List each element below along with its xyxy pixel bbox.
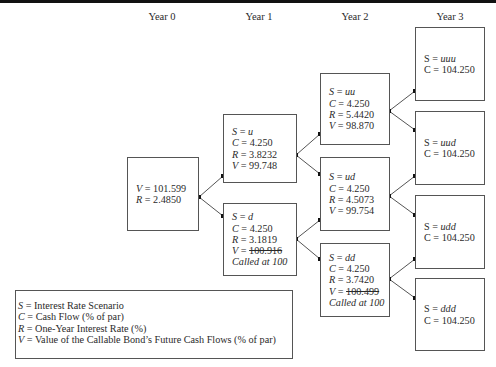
c-symbol: C — [329, 183, 336, 194]
node-ud: S = ud C = 4.250 R = 4.5073 V = 99.754 — [320, 157, 390, 231]
rate-line: R = 3.7420 — [329, 274, 389, 285]
c-symbol: C — [232, 137, 239, 148]
node-u: S = u C = 4.250 R = 3.8232 V = 99.748 — [223, 114, 297, 183]
equals: = — [431, 148, 442, 159]
s-value: uu — [345, 86, 355, 97]
s-value: u — [248, 126, 253, 137]
v-value: 99.754 — [346, 205, 374, 216]
cashflow-line: C = 4.250 — [329, 183, 389, 194]
value-line: V = 98.870 — [329, 120, 389, 131]
equals: = — [237, 211, 248, 222]
c-value: 4.250 — [250, 223, 273, 234]
equals: = — [238, 149, 249, 160]
node-uud: S = uud C = 104.250 — [415, 111, 485, 185]
c-value: 104.250 — [442, 315, 475, 326]
s-value: ddd — [441, 303, 456, 314]
node-uuu: S = uuu C = 104.250 — [415, 27, 485, 101]
value-line: V = 100.916 — [232, 245, 296, 256]
legend-symbol: C — [18, 311, 25, 322]
legend-item-c: C = Cash Flow (% of par) — [18, 311, 292, 322]
equals: = — [431, 232, 442, 243]
scenario-line: S = udd — [424, 221, 484, 232]
equals: = — [335, 109, 346, 120]
equals: = — [334, 252, 345, 263]
equals: = — [239, 223, 250, 234]
value-line: V = 99.754 — [329, 205, 389, 216]
cashflow-line: C = 104.250 — [424, 232, 484, 243]
equals: = — [238, 160, 249, 171]
scenario-line: S = d — [232, 211, 296, 222]
scenario-line: S = u — [232, 126, 296, 137]
s-value: uud — [441, 137, 456, 148]
cashflow-line: C = 104.250 — [424, 64, 484, 75]
legend-item-s: S = Interest Rate Scenario — [18, 300, 292, 311]
s-value: d — [248, 211, 253, 222]
equals: = — [238, 234, 249, 245]
equals: = — [430, 53, 441, 64]
equals: = — [335, 274, 346, 285]
c-symbol: C — [424, 315, 431, 326]
node-root-value: V = 101.599 — [136, 183, 198, 194]
s-value: uuu — [441, 53, 456, 64]
c-symbol: C — [424, 232, 431, 243]
scenario-line: S = uuu — [424, 53, 484, 64]
equals: = — [336, 263, 347, 274]
node-ddd: S = ddd C = 104.250 — [415, 278, 485, 351]
c-symbol: C — [424, 64, 431, 75]
c-symbol: C — [329, 263, 336, 274]
equals: = — [336, 183, 347, 194]
c-value: 4.250 — [250, 137, 273, 148]
legend-text: = Cash Flow (% of par) — [25, 311, 124, 322]
equals: = — [431, 315, 442, 326]
s-value: udd — [441, 221, 456, 232]
equals: = — [430, 137, 441, 148]
node-d: S = d C = 4.250 R = 3.1819 V = 100.916 C… — [223, 203, 297, 276]
c-value: 104.250 — [442, 148, 475, 159]
scenario-line: S = uud — [424, 137, 484, 148]
equals: = — [335, 205, 346, 216]
s-value: ud — [345, 171, 355, 182]
called-note: Called at 100 — [232, 256, 296, 267]
r-value: 3.1819 — [249, 234, 277, 245]
equals: = — [142, 194, 153, 205]
v-value: 98.870 — [346, 120, 374, 131]
c-symbol: C — [424, 148, 431, 159]
v-value: 101.599 — [153, 183, 186, 194]
equals: = — [142, 183, 153, 194]
node-uu: S = uu C = 4.250 R = 5.4420 V = 98.870 — [320, 73, 390, 145]
equals: = — [334, 171, 345, 182]
equals: = — [334, 86, 345, 97]
legend-text: = Interest Rate Scenario — [23, 300, 124, 311]
v-value-struck: 100.916 — [249, 245, 282, 256]
legend-text: = One-Year Interest Rate (%) — [24, 323, 146, 334]
node-root: V = 101.599 R = 2.4850 — [127, 157, 199, 231]
equals: = — [239, 137, 250, 148]
node-dd: S = dd C = 4.250 R = 3.7420 V = 100.499 … — [320, 243, 390, 317]
node-udd: S = udd C = 104.250 — [415, 195, 485, 269]
r-value: 5.4420 — [346, 109, 374, 120]
cashflow-line: C = 4.250 — [329, 98, 389, 109]
r-value: 4.5073 — [346, 194, 374, 205]
c-symbol: C — [329, 98, 336, 109]
scenario-line: S = ddd — [424, 303, 484, 314]
equals: = — [237, 126, 248, 137]
c-value: 4.250 — [347, 183, 370, 194]
cashflow-line: C = 104.250 — [424, 315, 484, 326]
scenario-line: S = ud — [329, 171, 389, 182]
s-value: dd — [345, 252, 355, 263]
legend-text: = Value of the Callable Bond’s Future Ca… — [24, 334, 276, 345]
r-value: 2.4850 — [153, 194, 181, 205]
scenario-line: S = dd — [329, 252, 389, 263]
c-value: 104.250 — [442, 64, 475, 75]
cashflow-line: C = 4.250 — [232, 223, 296, 234]
r-value: 3.8232 — [249, 149, 277, 160]
cashflow-line: C = 4.250 — [232, 137, 296, 148]
equals: = — [335, 194, 346, 205]
legend-item-r: R = One-Year Interest Rate (%) — [18, 323, 292, 334]
equals: = — [238, 245, 249, 256]
c-value: 104.250 — [442, 232, 475, 243]
cashflow-line: C = 4.250 — [329, 263, 389, 274]
scenario-line: S = uu — [329, 86, 389, 97]
value-line: V = 99.748 — [232, 160, 296, 171]
v-value-struck: 100.499 — [346, 286, 379, 297]
